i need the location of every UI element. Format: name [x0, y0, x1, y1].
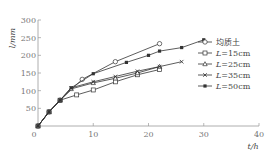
data-series	[36, 38, 206, 128]
x-tick-label: 40	[254, 130, 264, 139]
data-point-marker	[113, 59, 117, 63]
series-line	[38, 70, 160, 127]
y-tick-label: 250	[21, 34, 36, 43]
y-axis-title: l/mm	[8, 27, 17, 48]
legend-label: L=25cm	[215, 60, 251, 69]
data-point-marker	[147, 54, 150, 57]
legend-item: L=15cm	[198, 49, 251, 58]
data-point-marker	[47, 110, 50, 113]
data-point-marker	[180, 46, 183, 49]
y-tick-label: 200	[21, 51, 36, 60]
data-point-marker	[59, 99, 62, 102]
series-line	[38, 67, 160, 126]
data-point-marker	[113, 80, 117, 84]
x-axis-title: t/h	[247, 142, 258, 151]
line-chart: 50100150200250300010203040l/mmt/h 均质土L=1…	[0, 0, 269, 156]
data-point-marker	[157, 41, 161, 45]
x-tick-label: 30	[199, 130, 209, 139]
y-tick-label: 300	[21, 16, 36, 25]
legend-label: 均质土	[216, 37, 240, 47]
data-point-marker	[125, 61, 128, 64]
legend-item: L=50cm	[198, 82, 251, 91]
data-point-marker	[203, 40, 207, 44]
y-tick-label: 150	[21, 69, 36, 78]
legend-item: L=35cm	[198, 71, 251, 80]
x-tick-label: 0	[31, 130, 36, 139]
legend-item: L=25cm	[198, 60, 251, 69]
data-point-marker	[203, 51, 207, 55]
legend-label: L=35cm	[215, 71, 251, 80]
series-l15cm	[36, 67, 162, 128]
y-tick-label: 100	[21, 87, 36, 96]
series-line	[38, 40, 204, 126]
data-point-marker	[91, 88, 95, 92]
data-point-marker	[203, 84, 206, 87]
data-point-marker	[75, 93, 79, 97]
data-point-marker	[92, 72, 95, 75]
x-tick-label: 10	[88, 130, 98, 139]
series-l50cm	[36, 38, 205, 127]
data-point-marker	[36, 124, 39, 127]
legend-label: L=50cm	[215, 82, 251, 91]
series-	[36, 41, 162, 128]
legend-label: L=15cm	[215, 49, 251, 58]
data-point-marker	[70, 86, 73, 89]
x-tick-label: 20	[143, 130, 153, 139]
data-point-marker	[158, 49, 161, 52]
legend: 均质土L=15cmL=25cmL=35cmL=50cm	[198, 37, 251, 91]
y-tick-label: 50	[26, 104, 36, 113]
series-line	[38, 44, 160, 126]
